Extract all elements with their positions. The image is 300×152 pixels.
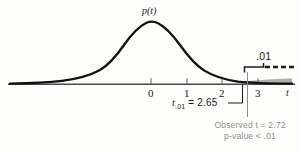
observed-value-annotation: Observed t = 2.72 p-value < .01 [203,121,297,140]
tail-area-bracket [245,67,265,73]
tail-area-label: .01 [256,51,272,62]
x-axis-label: t [286,88,289,98]
axis-tick-label-2: 2 [219,88,225,99]
axis-tick-label-0: 0 [148,88,154,99]
critical-value-subscript: .01 [175,103,185,110]
density-curve-label: p(t) [142,6,156,16]
critical-value-number: = 2.65 [188,97,217,108]
observed-value-line-2: p-value < .01 [203,132,297,141]
axis-tick-label-3: 3 [255,88,261,99]
t-distribution-figure: p(t) 0 1 2 3 t .01 t.01 = 2.65 Observed … [0,0,300,152]
observed-value-line-1: Observed t = 2.72 [203,121,297,130]
density-curve [10,22,292,84]
critical-value-label: t.01 = 2.65 [172,98,218,110]
critical-value-leader [228,84,243,103]
